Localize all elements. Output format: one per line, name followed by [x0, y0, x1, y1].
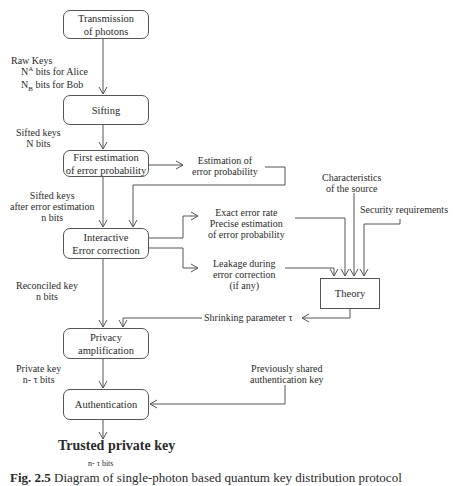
subscript: A [28, 65, 33, 73]
line: n bits [10, 212, 94, 223]
raw-bob: NB bits for Bob [11, 79, 88, 92]
line: authentication key [250, 374, 324, 385]
text: Trusted private key [58, 438, 175, 453]
line: Exact error rate [208, 207, 285, 218]
line: of the source [322, 183, 381, 194]
sifting-box: Sifting [63, 95, 149, 125]
box-line: Authentication [75, 398, 137, 411]
exact-error-label: Exact error rate Precise estimation of e… [208, 207, 285, 240]
privacy-amplification-box: Privacy amplification [63, 328, 149, 359]
raw-keys-title: Raw Keys [11, 55, 88, 66]
box-line: Error correction [72, 244, 139, 257]
line: Characteristics [322, 172, 381, 183]
raw-keys-label: Raw Keys NA bits for Alice NB bits for B… [11, 55, 88, 92]
sifted-keys-label: Sifted keys N bits [16, 127, 61, 149]
first-estimation-box: First estimation of error probability [63, 150, 149, 177]
line: Reconciled key [16, 280, 78, 291]
estimation-error-label: Estimation of error probability [192, 155, 258, 177]
box-line: Privacy [90, 331, 122, 344]
private-key-label: Private key n- τ bits [16, 363, 61, 385]
raw-alice: NA bits for Alice [11, 66, 88, 79]
line: Sifted keys [16, 127, 61, 138]
line: of error probability [208, 229, 285, 240]
box-line: Sifting [92, 104, 121, 117]
line: after error estimation [10, 201, 94, 212]
box-line: Theory [335, 287, 365, 300]
shrinking-parameter-label: Shrinking parameter τ [204, 312, 292, 323]
box-line: amplification [78, 344, 134, 357]
line: Sifted keys [10, 190, 94, 201]
text: n- τ bits [88, 459, 113, 468]
box-line: First estimation [73, 151, 139, 164]
error-correction-box: Interactive Error correction [63, 228, 149, 259]
theory-box: Theory [320, 278, 380, 309]
subscript: B [28, 85, 33, 93]
trusted-private-key-label: Trusted private key [58, 440, 175, 451]
reconciled-key-label: Reconciled key n bits [16, 280, 78, 302]
security-requirements-label: Security requirements [360, 204, 448, 215]
characteristics-label: Characteristics of the source [322, 172, 381, 194]
figure-number: Fig. 2.5 [10, 470, 51, 485]
line: error correction [213, 269, 275, 280]
trusted-bits-label: n- τ bits [88, 458, 113, 469]
box-line: Interactive [84, 231, 129, 244]
box-line: of photons [84, 25, 129, 38]
previously-shared-label: Previously shared authentication key [250, 363, 324, 385]
text: Security requirements [360, 204, 448, 215]
line: error probability [192, 166, 258, 177]
leakage-label: Leakage during error correction (if any) [213, 258, 275, 291]
line: Estimation of [192, 155, 258, 166]
line: Previously shared [250, 363, 324, 374]
sifted-after-label: Sifted keys after error estimation n bit… [10, 190, 94, 223]
figure-caption: Fig. 2.5 Diagram of single-photon based … [10, 470, 402, 486]
line: Leakage during [213, 258, 275, 269]
text: bits for Bob [35, 79, 83, 90]
line: Private key [16, 363, 61, 374]
line: (if any) [213, 280, 275, 291]
line: n- τ bits [16, 374, 61, 385]
transmission-of-photons-box: Transmission of photons [63, 10, 149, 39]
line: Precise estimation [208, 218, 285, 229]
authentication-box: Authentication [63, 389, 149, 420]
text: bits for Alice [36, 66, 88, 77]
line: N bits [16, 138, 61, 149]
text: Shrinking parameter τ [204, 312, 292, 323]
box-line: of error probability [66, 164, 146, 177]
caption-text: Diagram of single-photon based quantum k… [54, 470, 402, 485]
box-line: Transmission [78, 12, 134, 25]
line: n bits [16, 291, 78, 302]
